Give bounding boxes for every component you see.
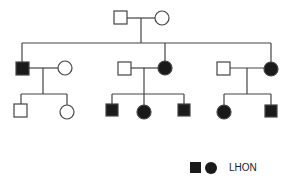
male-affected-II-1 bbox=[16, 62, 29, 75]
male-unaffected-II-2-spouse bbox=[118, 62, 131, 75]
legend-filled-circle-icon bbox=[205, 162, 217, 174]
male-unaffected-I-1 bbox=[114, 11, 127, 24]
male-unaffected-III-1 bbox=[14, 104, 27, 117]
female-affected-II-3 bbox=[264, 62, 278, 76]
pedigree-svg bbox=[0, 0, 288, 185]
male-affected-III-3 bbox=[106, 104, 118, 116]
legend-symbols bbox=[190, 162, 217, 174]
female-affected-III-4 bbox=[137, 105, 151, 119]
male-unaffected-II-3-spouse bbox=[217, 62, 230, 75]
female-affected-III-6 bbox=[217, 105, 231, 119]
female-unaffected-I-2 bbox=[155, 11, 169, 25]
pedigree-diagram: LHON bbox=[0, 0, 288, 185]
female-unaffected-III-2 bbox=[60, 105, 74, 119]
connector-lines bbox=[21, 18, 271, 105]
female-affected-II-2 bbox=[158, 61, 172, 75]
legend-label: LHON bbox=[229, 162, 257, 173]
legend-filled-square-icon bbox=[190, 162, 201, 173]
male-affected-III-7 bbox=[265, 105, 277, 117]
male-affected-III-5 bbox=[178, 104, 190, 116]
female-unaffected-II-1-spouse bbox=[58, 61, 72, 75]
individuals bbox=[14, 11, 278, 119]
